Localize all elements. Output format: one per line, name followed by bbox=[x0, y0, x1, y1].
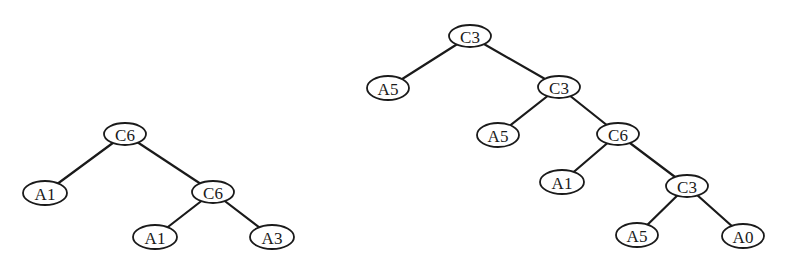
nodes-layer: C6A1C6A1A3C3A5C3A5C6A1C3A5A0 bbox=[23, 25, 764, 249]
tree-node: C6 bbox=[192, 181, 234, 203]
node-label: C6 bbox=[608, 126, 628, 145]
tree-node: C3 bbox=[666, 175, 708, 197]
tree-node: C3 bbox=[449, 25, 491, 47]
node-label: C3 bbox=[549, 79, 569, 98]
tree-node: A1 bbox=[23, 181, 67, 205]
node-label: A5 bbox=[627, 227, 648, 246]
node-label: A1 bbox=[35, 185, 56, 204]
right-tree-nodes: C3A5C3A5C6A1C3A5A0 bbox=[367, 25, 764, 248]
left-tree-edges bbox=[45, 134, 272, 237]
tree-node: A3 bbox=[250, 225, 294, 249]
node-label: C6 bbox=[115, 126, 135, 145]
node-label: A1 bbox=[552, 174, 573, 193]
node-label: A0 bbox=[733, 228, 754, 247]
tree-node: A1 bbox=[133, 225, 177, 249]
node-label: C3 bbox=[460, 28, 480, 47]
tree-node: A5 bbox=[477, 123, 519, 147]
tree-node: C6 bbox=[104, 123, 146, 145]
right-tree-edges bbox=[388, 36, 743, 236]
node-label: A1 bbox=[145, 229, 166, 248]
tree-node: A1 bbox=[540, 170, 584, 194]
node-label: A3 bbox=[262, 229, 283, 248]
left-tree-nodes: C6A1C6A1A3 bbox=[23, 123, 294, 249]
tree-node: C6 bbox=[597, 123, 639, 145]
tree-node: A0 bbox=[722, 224, 764, 248]
node-label: A5 bbox=[378, 80, 399, 99]
node-label: A5 bbox=[488, 127, 509, 146]
tree-node: A5 bbox=[367, 76, 409, 100]
tree-node: A5 bbox=[616, 223, 658, 247]
tree-node: C3 bbox=[538, 76, 580, 98]
node-label: C3 bbox=[677, 178, 697, 197]
tree-diagram: C6A1C6A1A3C3A5C3A5C6A1C3A5A0 bbox=[0, 0, 785, 269]
node-label: C6 bbox=[203, 184, 223, 203]
